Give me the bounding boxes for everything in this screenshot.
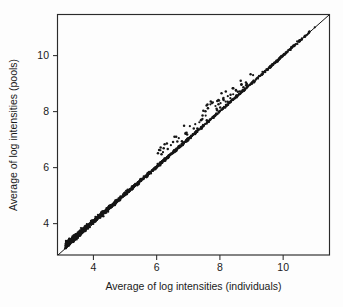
y-tick-label: 10 [37,49,49,61]
data-point [92,219,94,221]
data-point [67,239,69,241]
data-point [249,73,252,76]
data-point [70,240,72,242]
data-point [226,101,229,104]
data-point [189,125,191,127]
data-point [184,132,187,135]
data-point [245,84,248,87]
data-point [257,77,259,79]
data-point [160,153,163,156]
data-point [95,219,97,221]
data-point [293,45,295,47]
data-point [158,149,161,152]
data-point [140,179,142,181]
data-point [157,152,160,155]
data-point [278,59,280,61]
data-point [252,74,254,76]
data-point [84,229,86,231]
data-point [110,205,112,207]
data-point [211,102,214,105]
data-point [205,114,207,116]
data-point [128,191,130,193]
data-point [204,110,207,113]
data-point [119,197,121,199]
data-point [248,84,250,86]
data-point [156,166,158,168]
x-tick-label: 4 [90,261,96,273]
data-point [94,216,96,218]
data-point [229,97,231,99]
data-point [190,137,192,139]
data-point [217,103,220,106]
data-point [261,71,263,73]
y-tick-label: 6 [43,161,49,173]
data-point [244,88,246,90]
data-point [142,177,144,179]
data-point [178,137,180,139]
y-tick-label: 8 [43,105,49,117]
data-point [304,35,306,37]
figure-container: 46810 46810 Average of log intensities (… [0,0,343,307]
data-point [78,231,80,233]
data-point [261,73,263,75]
data-point [165,158,167,160]
data-point [233,98,235,100]
data-point [267,68,269,70]
data-point [166,142,169,145]
data-point [196,127,199,130]
data-point [290,47,292,49]
data-point [283,54,285,56]
data-point [215,108,218,111]
data-point [162,147,165,150]
data-point [101,215,103,217]
data-point [236,94,238,96]
data-point [77,237,79,239]
data-point [215,113,217,115]
data-point [119,199,121,201]
data-point [238,93,240,95]
data-point [152,169,154,171]
data-point [74,234,76,236]
data-point [163,143,166,146]
data-point [214,105,216,107]
data-point [103,215,105,217]
data-point [218,111,220,113]
data-point [301,38,303,40]
data-point [183,142,185,144]
data-point [162,151,164,153]
y-tick-label: 4 [43,217,49,229]
data-point [289,49,291,51]
data-point [136,184,138,186]
data-point [240,83,243,86]
data-point [166,156,168,158]
data-point [77,234,79,236]
data-point [314,26,316,28]
data-point [207,107,210,110]
data-point [68,241,70,243]
y-axis-title: Average of log intensities (pools) [7,59,19,211]
data-point [201,114,204,117]
data-point [308,31,310,33]
data-point [200,127,202,129]
data-point [204,123,206,125]
x-tick-label: 6 [154,261,160,273]
data-point [131,187,133,189]
data-point [146,175,148,177]
data-point [107,207,109,209]
data-point [219,106,222,109]
data-point [73,236,75,238]
data-point [159,162,161,164]
data-point [286,51,288,53]
data-point [205,104,208,107]
data-point [198,121,200,123]
data-point [229,101,231,103]
data-point [176,140,179,143]
data-point [225,100,227,102]
data-point [220,109,222,111]
x-tick-label: 10 [277,261,289,273]
data-point [200,119,203,122]
data-point [264,70,266,72]
data-point [235,89,238,92]
data-point [226,105,228,107]
data-point [80,227,82,229]
